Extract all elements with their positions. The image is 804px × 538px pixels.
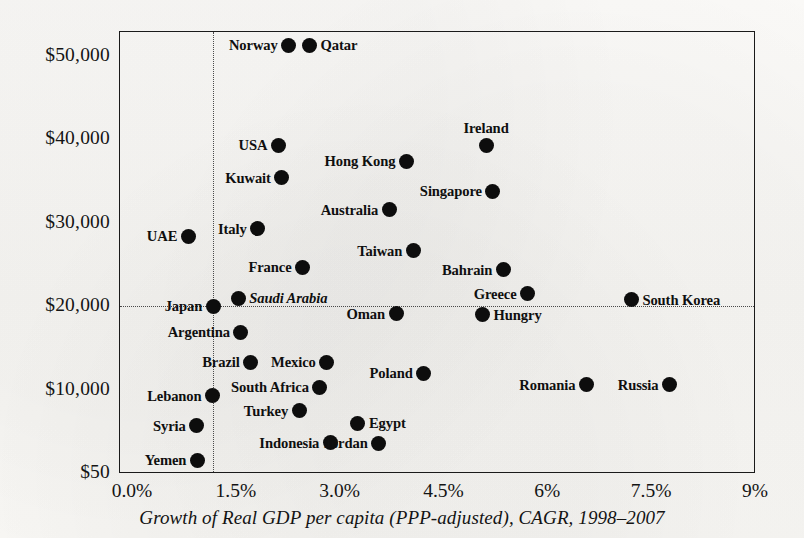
data-point[interactable]	[189, 418, 204, 433]
data-point[interactable]	[250, 221, 265, 236]
data-point[interactable]	[190, 453, 205, 468]
data-point[interactable]	[295, 260, 310, 275]
y-tick-label: $50,000	[45, 44, 110, 66]
data-point[interactable]	[579, 377, 594, 392]
data-point-label: Mexico	[271, 354, 316, 371]
data-point[interactable]	[662, 377, 677, 392]
data-point[interactable]	[181, 229, 196, 244]
data-point-label: Taiwan	[357, 242, 402, 259]
data-point-label: Ireland	[463, 120, 508, 137]
data-point[interactable]	[520, 286, 535, 301]
data-point-label: Poland	[370, 365, 413, 382]
x-tick-label: 4.5%	[423, 480, 464, 502]
data-point-label: Syria	[153, 417, 186, 434]
data-point-label: Oman	[347, 305, 386, 322]
data-point[interactable]	[399, 154, 414, 169]
y-tick-label: $40,000	[45, 127, 110, 149]
data-point-label: Jordan	[324, 435, 368, 452]
x-axis-tick-labels: 0.0%1.5%3.0%4.5%6%7.5%9%	[0, 480, 804, 508]
data-point-label: Brazil	[202, 354, 240, 371]
data-point-label: France	[248, 259, 291, 276]
data-point-label: Egypt	[369, 415, 406, 432]
data-point-label: Yemen	[145, 452, 187, 469]
y-tick-label: $30,000	[45, 211, 110, 233]
data-point[interactable]	[496, 262, 511, 277]
chart-page: $50,000$40,000$30,000$20,000$10,000$50 N…	[0, 0, 804, 538]
x-tick-label: 6%	[534, 480, 560, 502]
data-point-label: Hong Kong	[325, 153, 396, 170]
data-point-label: Turkey	[244, 402, 288, 419]
gridline-vertical	[213, 32, 214, 472]
data-point-label: South Africa	[231, 379, 309, 396]
data-point[interactable]	[271, 138, 286, 153]
x-tick-label: 9%	[742, 480, 768, 502]
data-point-label: Qatar	[321, 37, 358, 54]
data-point-label: USA	[238, 137, 267, 154]
data-point-label: Saudi Arabia	[249, 290, 327, 307]
data-point[interactable]	[485, 184, 500, 199]
data-point[interactable]	[205, 388, 220, 403]
x-tick-label: 3.0%	[319, 480, 360, 502]
data-point[interactable]	[302, 38, 317, 53]
data-point[interactable]	[416, 366, 431, 381]
data-point[interactable]	[312, 380, 327, 395]
data-point-label: Italy	[218, 220, 247, 237]
data-point[interactable]	[233, 325, 248, 340]
data-point[interactable]	[281, 38, 296, 53]
data-point[interactable]	[475, 307, 490, 322]
data-point[interactable]	[231, 291, 246, 306]
data-point[interactable]	[382, 202, 397, 217]
data-point[interactable]	[389, 306, 404, 321]
data-point-label: South Korea	[642, 291, 720, 308]
y-tick-label: $10,000	[45, 378, 110, 400]
data-point-label: Norway	[229, 37, 278, 54]
data-point[interactable]	[406, 243, 421, 258]
data-point[interactable]	[243, 355, 258, 370]
data-point-label: Bahrain	[442, 261, 492, 278]
data-point[interactable]	[624, 292, 639, 307]
data-point[interactable]	[206, 299, 221, 314]
data-point-label: Singapore	[420, 183, 482, 200]
x-tick-label: 1.5%	[216, 480, 257, 502]
data-point-label: Indonesia	[259, 434, 319, 451]
x-tick-label: 0.0%	[112, 480, 153, 502]
data-point-label: Australia	[321, 201, 378, 218]
data-point-label: Argentina	[168, 324, 230, 341]
y-axis-tick-labels: $50,000$40,000$30,000$20,000$10,000$50	[0, 31, 110, 473]
data-point-label: Lebanon	[147, 387, 201, 404]
data-point-label: Russia	[618, 376, 659, 393]
data-point-label: UAE	[147, 228, 178, 245]
data-point[interactable]	[350, 416, 365, 431]
plot-area: NorwayQatarUSAIrelandHong KongKuwaitSing…	[119, 31, 755, 473]
data-point[interactable]	[274, 170, 289, 185]
data-point[interactable]	[319, 355, 334, 370]
y-tick-label: $20,000	[45, 294, 110, 316]
data-point[interactable]	[292, 403, 307, 418]
data-point-label: Romania	[519, 376, 575, 393]
data-point-label: Kuwait	[225, 169, 271, 186]
x-tick-label: 7.5%	[631, 480, 672, 502]
data-point-label: Greece	[474, 285, 517, 302]
data-point-label: Japan	[165, 298, 203, 315]
data-point[interactable]	[479, 138, 494, 153]
chart-caption: Growth of Real GDP per capita (PPP-adjus…	[0, 507, 804, 529]
data-point[interactable]	[371, 436, 386, 451]
data-point-label: Hungry	[494, 306, 542, 323]
